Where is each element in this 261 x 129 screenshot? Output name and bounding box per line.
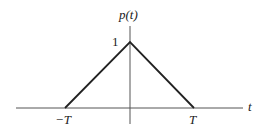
- T-tick-label: T: [189, 112, 197, 127]
- x-axis-label: t: [248, 99, 252, 114]
- neg-T-tick-label: −T: [55, 112, 72, 127]
- peak-value-label: 1: [112, 34, 119, 49]
- y-axis-label: p(t): [118, 7, 138, 22]
- triangular-pulse-diagram: p(t) t 1 −T T: [0, 0, 261, 129]
